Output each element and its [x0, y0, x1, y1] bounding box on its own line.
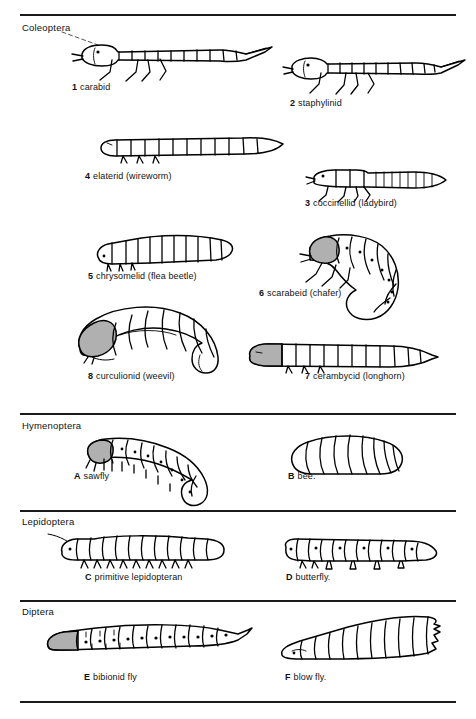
figure-key: D: [286, 572, 293, 582]
figure-name: primitive lepidopteran: [95, 572, 183, 582]
larva-illustration-curculionid: [70, 305, 235, 377]
figure-label-8-curculionid: 8curculionid (weevil): [88, 371, 175, 381]
larva-illustration-carabid: [60, 28, 275, 86]
larva-illustration-staphylinid: [276, 48, 468, 100]
section-divider-diptera: [20, 600, 456, 602]
larva-illustration-elaterid: [93, 130, 288, 170]
larvae-identification-plate: Coleoptera 1carabid: [0, 0, 476, 719]
figure-name: carabid: [80, 82, 110, 92]
figure-name: curculionid (weevil): [96, 371, 175, 381]
section-divider-lepidoptera: [20, 510, 456, 512]
figure-label-1-carabid: 1carabid: [72, 82, 110, 92]
figure-label-4-elaterid: 4elaterid (wireworm): [85, 171, 172, 181]
figure-label-5-chrysomelid: 5chrysomelid (flea beetle): [88, 271, 197, 281]
figure-key: 5: [88, 271, 93, 281]
figure-label-2-staphylinid: 2staphylinid: [290, 98, 342, 108]
figure-name: bibionid fly: [93, 672, 137, 682]
figure-name: blow fly.: [294, 672, 327, 682]
figure-name: sawfly: [84, 471, 110, 481]
figure-key: F: [285, 672, 291, 682]
larva-illustration-chrysomelid: [90, 232, 240, 274]
figure-label-A-sawfly: Asawfly: [74, 471, 109, 481]
figure-name: coccinellid (ladybird): [313, 198, 397, 208]
figure-key: 3: [305, 198, 310, 208]
figure-key: 6: [259, 288, 264, 298]
figure-key: E: [84, 672, 90, 682]
figure-name: elaterid (wireworm): [93, 171, 171, 181]
figure-name: cerambycid (longhorn): [313, 371, 405, 381]
figure-label-E-bibionid-fly: Ebibionid fly: [84, 672, 137, 682]
figure-key: 7: [305, 371, 310, 381]
section-divider-top: [20, 14, 456, 16]
order-label-diptera: Diptera: [22, 606, 54, 617]
figure-name: chrysomelid (flea beetle): [96, 271, 197, 281]
larva-illustration-coccinellid: [302, 163, 452, 203]
figure-label-F-blow-fly: Fblow fly.: [285, 672, 326, 682]
order-label-hymenoptera: Hymenoptera: [22, 420, 81, 431]
figure-key: B: [288, 471, 295, 481]
figure-key: 8: [88, 371, 93, 381]
figure-label-7-cerambycid: 7cerambycid (longhorn): [305, 371, 405, 381]
figure-name: butterfly.: [296, 572, 331, 582]
larva-illustration-bibionid-fly: [42, 620, 257, 660]
figure-key: 4: [85, 171, 90, 181]
larva-illustration-scarabeid: [292, 232, 422, 327]
larva-illustration-blow-fly: [278, 615, 448, 663]
figure-label-6-scarabeid: 6scarabeid (chafer): [259, 288, 341, 298]
figure-name: bee.: [298, 471, 316, 481]
figure-label-B-bee: Bbee.: [288, 471, 316, 481]
figure-label-C-primitive-lepidopteran: Cprimitive lepidopteran: [85, 572, 182, 582]
figure-name: scarabeid (chafer): [267, 288, 341, 298]
section-divider-hymenoptera: [20, 413, 456, 415]
figure-key: C: [85, 572, 92, 582]
figure-key: A: [74, 471, 81, 481]
figure-label-D-butterfly: Dbutterfly.: [286, 572, 330, 582]
order-label-lepidoptera: Lepidoptera: [22, 516, 74, 527]
figure-key: 1: [72, 82, 77, 92]
larva-illustration-primitive-lepidopteran: [48, 530, 233, 578]
figure-name: staphylinid: [298, 98, 342, 108]
figure-key: 2: [290, 98, 295, 108]
section-divider-bottom: [20, 701, 456, 703]
figure-label-3-coccinellid: 3coccinellid (ladybird): [305, 198, 397, 208]
